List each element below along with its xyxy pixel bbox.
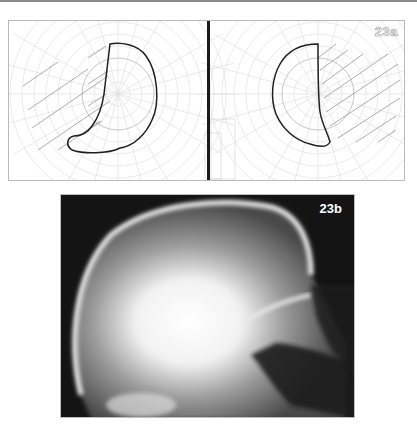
panel-label-a: 23a bbox=[375, 24, 398, 39]
skull-xray: 23b bbox=[60, 194, 355, 418]
panel-label-b: 23b bbox=[320, 201, 342, 216]
visual-field-plot bbox=[9, 21, 405, 181]
xray-image bbox=[61, 195, 355, 418]
left-field-isopter bbox=[68, 43, 157, 152]
left-eye-field bbox=[9, 21, 238, 181]
visual-field-charts: 23a bbox=[8, 20, 405, 181]
right-eye-field bbox=[198, 21, 405, 181]
top-rule bbox=[0, 0, 417, 2]
center-divider bbox=[207, 21, 210, 181]
left-hatching bbox=[23, 46, 110, 150]
right-hatching bbox=[318, 44, 400, 142]
